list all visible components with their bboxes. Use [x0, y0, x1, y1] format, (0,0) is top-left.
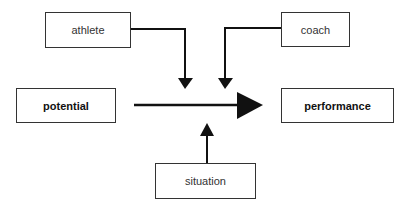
- athlete-connector: [130, 29, 185, 80]
- coach-arrow-head: [218, 78, 233, 89]
- node-potential: potential: [16, 88, 116, 123]
- node-situation: situation: [155, 163, 256, 199]
- situation-arrow-head: [200, 123, 214, 136]
- node-performance: performance: [281, 88, 394, 123]
- coach-connector: [225, 28, 281, 80]
- node-situation-label: situation: [185, 175, 226, 187]
- node-potential-label: potential: [43, 100, 89, 112]
- node-performance-label: performance: [304, 100, 371, 112]
- node-coach-label: coach: [301, 24, 330, 36]
- main-arrow-head: [237, 92, 263, 119]
- node-coach: coach: [281, 12, 350, 47]
- athlete-arrow-head: [178, 78, 193, 89]
- node-athlete-label: athlete: [71, 24, 104, 36]
- node-athlete: athlete: [45, 12, 131, 48]
